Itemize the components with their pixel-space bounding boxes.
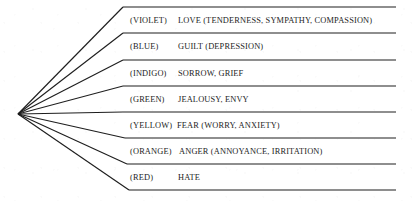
row-emotion-label: HATE: [178, 171, 200, 184]
branch-line-0: [18, 7, 123, 114]
branch-line-4: [18, 112, 123, 114]
row-color-label: (INDIGO): [130, 67, 167, 80]
row-emotion-label: FEAR (WORRY, ANXIETY): [177, 119, 280, 132]
row-emotion-label: ANGER (ANNOYANCE, IRRITATION): [179, 145, 322, 158]
branch-line-5: [18, 114, 125, 138]
row-emotion-label: SORROW, GRIEF: [178, 67, 243, 80]
row-color-label: (BLUE): [130, 40, 158, 53]
row-color-label: (YELLOW): [130, 119, 172, 132]
branch-line-3: [18, 86, 123, 114]
row-color-label: (RED): [130, 171, 153, 184]
branch-line-1: [18, 33, 123, 114]
closing-branch-line: [18, 114, 129, 190]
branch-line-2: [18, 60, 123, 114]
row-color-label: (VIOLET): [130, 14, 167, 27]
branch-line-6: [18, 114, 127, 164]
branch-line-group: [18, 7, 129, 190]
row-emotion-label: LOVE (TENDERNESS, SYMPATHY, COMPASSION): [178, 14, 372, 27]
row-emotion-label: JEALOUSY, ENVY: [178, 93, 249, 106]
color-emotion-fan-diagram: (VIOLET)LOVE (TENDERNESS, SYMPATHY, COMP…: [0, 0, 413, 201]
row-color-label: (ORANGE): [130, 145, 172, 158]
row-emotion-label: GUILT (DEPRESSION): [178, 40, 263, 53]
row-color-label: (GREEN): [130, 93, 165, 106]
